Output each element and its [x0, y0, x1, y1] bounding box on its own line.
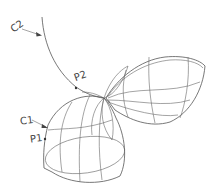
wireframe-diagram: C2 P2 C1 P1: [0, 0, 219, 191]
right-lobe-grid-line: [108, 100, 190, 104]
left-lobe-outer: [44, 96, 125, 182]
curve-c2: [42, 17, 103, 98]
label-c2: C2: [8, 18, 25, 35]
left-lobe-grid-line: [60, 102, 72, 172]
right-lobe-outer: [106, 57, 205, 125]
center-lobe: [104, 66, 128, 98]
c1-arrowhead: [42, 124, 49, 128]
c2-arrowhead: [36, 32, 42, 37]
left-lobe-grid-line: [48, 120, 112, 130]
label-c1: C1: [19, 114, 34, 127]
diagram-canvas: C2 P2 C1 P1: [0, 0, 219, 191]
left-lobe-grid-line: [79, 95, 90, 182]
right-lobe-grid-line: [108, 102, 178, 116]
label-p2: P2: [73, 68, 88, 83]
base-ellipse: [43, 132, 127, 179]
point-p2: [75, 87, 77, 89]
left-lobe-grid-line: [99, 98, 104, 180]
label-p1: P1: [29, 132, 43, 145]
point-p1: [44, 138, 46, 140]
center-lobe: [102, 98, 113, 140]
